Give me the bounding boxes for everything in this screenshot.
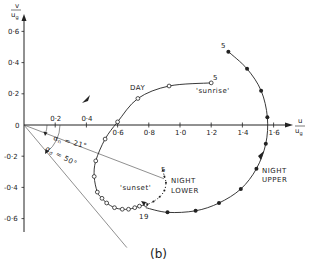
day-label: DAY xyxy=(130,84,146,92)
x-tick-label: 0·4 xyxy=(81,115,93,123)
day-point-marker xyxy=(120,207,124,211)
y-tick-label: 0·6 xyxy=(8,28,20,36)
night-lower-point-marker xyxy=(163,190,165,192)
day-point-marker xyxy=(167,84,171,88)
day-point-marker xyxy=(136,97,140,101)
day-point-marker xyxy=(92,175,96,179)
night-lower-label-2: LOWER xyxy=(171,187,199,195)
night-upper-point-marker xyxy=(254,167,258,171)
x-axis xyxy=(24,123,293,128)
y-axis-label-den: ug xyxy=(11,11,19,21)
x-tick-label: 1·2 xyxy=(206,129,217,137)
night-lower-label-1: NIGHT xyxy=(171,177,196,185)
figure-caption: (b) xyxy=(150,247,167,261)
night-lower-point-marker xyxy=(146,204,148,206)
day-point-marker xyxy=(138,204,142,208)
night-upper-point-marker xyxy=(166,210,170,214)
night-upper-direction-arrow-icon xyxy=(258,151,264,160)
x-tick-label: 0·2 xyxy=(50,115,61,123)
y-tick-label: -0·6 xyxy=(4,215,18,223)
x-axis-arrow-icon xyxy=(285,123,293,128)
x-axis-label-num: u xyxy=(298,117,302,125)
day-point-marker xyxy=(113,206,117,210)
y-axis xyxy=(22,14,27,232)
x-tick-label: 1·4 xyxy=(237,129,249,137)
axis-ticks: 0·20·40·60·81·01·21·41·60·60·40·20-0·2-0… xyxy=(4,28,280,223)
day-point-marker xyxy=(95,190,99,194)
night-upper-point-marker xyxy=(239,187,243,191)
x-tick-label: 1·0 xyxy=(175,129,186,137)
sunset-label: 'sunset' xyxy=(120,184,151,192)
night-upper-label-2: UPPER xyxy=(262,176,287,184)
day-point-marker xyxy=(127,207,131,211)
y-tick-label: 0·4 xyxy=(8,59,20,67)
night-lower-point-marker xyxy=(165,182,167,184)
night-lower-point-marker xyxy=(152,200,154,202)
day-point-marker xyxy=(116,120,120,124)
night-upper-point-marker xyxy=(217,201,221,205)
alpha-n-label: αn = 21° xyxy=(52,134,88,151)
hour-5-lower-label: 5 xyxy=(161,166,166,174)
hour-5-day-label: 5 xyxy=(213,74,218,82)
y-axis-label-num: v xyxy=(15,2,19,10)
night-upper-point-marker xyxy=(259,89,263,93)
hour-19-label: 19 xyxy=(139,213,149,221)
night-upper-label-1: NIGHT xyxy=(262,167,287,175)
day-point-marker xyxy=(103,137,107,141)
hour-5-upper-label: 5 xyxy=(221,42,226,50)
night-upper-point-marker xyxy=(264,142,268,146)
night-upper-point-marker xyxy=(245,67,249,71)
alpha-sigma-label: ασ = 50° xyxy=(44,145,78,169)
day-direction-arrow-icon xyxy=(82,95,90,103)
y-axis-arrow-icon xyxy=(22,14,27,21)
x-axis-label: u ug xyxy=(295,117,305,137)
night-upper-point-marker xyxy=(226,50,230,54)
night-upper-point-marker xyxy=(194,209,198,213)
x-tick-label: 0·8 xyxy=(144,129,155,137)
y-axis-label: v ug xyxy=(11,2,21,21)
x-axis-label-den: ug xyxy=(295,127,303,137)
y-tick-label: -0·2 xyxy=(4,153,18,161)
day-point-marker xyxy=(94,159,98,163)
x-tick-label: 1·6 xyxy=(269,129,281,137)
day-point-marker xyxy=(100,196,104,200)
night-lower-point-marker xyxy=(159,196,161,198)
hodograph-figure: 0·20·40·60·81·01·21·41·60·60·40·20-0·2-0… xyxy=(0,0,309,269)
x-tick-label: 0·6 xyxy=(113,129,125,137)
y-tick-label: 0·2 xyxy=(8,90,19,98)
day-point-marker xyxy=(133,206,137,210)
y-tick-label: 0 xyxy=(15,122,19,130)
day-point-marker xyxy=(105,201,109,205)
night-upper-point-marker xyxy=(265,115,269,119)
night-lower-point-marker xyxy=(163,175,165,177)
sunrise-label: 'sunrise' xyxy=(196,87,230,95)
alpha-n-arc xyxy=(46,125,48,133)
y-tick-label: -0·4 xyxy=(4,184,18,192)
